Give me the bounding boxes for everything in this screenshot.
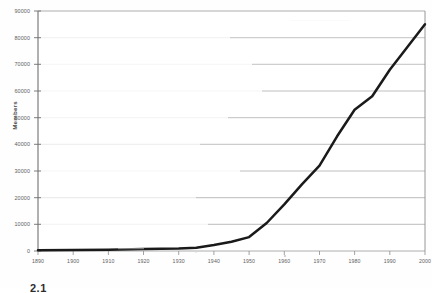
x-tick-label: 1910 bbox=[93, 258, 123, 264]
y-tick-label: 90000 bbox=[0, 8, 30, 14]
y-tick-label: 10000 bbox=[0, 221, 30, 227]
y-tick-label: 30000 bbox=[0, 168, 30, 174]
y-tick-label: 60000 bbox=[0, 88, 30, 94]
x-tick-label: 2000 bbox=[410, 258, 432, 264]
y-tick-label: 80000 bbox=[0, 35, 30, 41]
x-tick-label: 1950 bbox=[234, 258, 264, 264]
x-tick-label: 1890 bbox=[23, 258, 53, 264]
x-tick-label: 1920 bbox=[129, 258, 159, 264]
x-tick-label: 1960 bbox=[269, 258, 299, 264]
x-tick-label: 1930 bbox=[164, 258, 194, 264]
x-tick-label: 1940 bbox=[199, 258, 229, 264]
y-tick-label: 0 bbox=[0, 248, 30, 254]
y-tick-label: 40000 bbox=[0, 141, 30, 147]
x-tick-label: 1970 bbox=[305, 258, 335, 264]
y-tick-label: 70000 bbox=[0, 61, 30, 67]
plot-area bbox=[38, 11, 425, 251]
figure-caption: 2.1 bbox=[30, 282, 47, 293]
y-tick-label: 20000 bbox=[0, 195, 30, 201]
y-tick-label: 50000 bbox=[0, 115, 30, 121]
x-tick-label: 1900 bbox=[58, 258, 88, 264]
x-tick-label: 1980 bbox=[340, 258, 370, 264]
x-tick-label: 1990 bbox=[375, 258, 405, 264]
x-tick-marks bbox=[38, 251, 425, 255]
